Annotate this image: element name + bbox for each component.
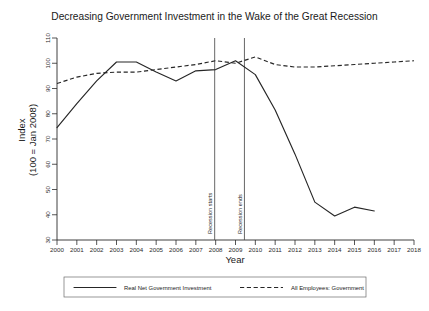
x-tick-label: 2001 — [70, 246, 84, 253]
series-line-0 — [57, 61, 374, 216]
y-tick-label: 110 — [44, 33, 51, 43]
recession-annotations: Recession startsRecession ends — [207, 38, 244, 240]
chart-legend: Real Net Government Investment All Emplo… — [64, 277, 366, 297]
y-axis-title-line1: Index — [16, 118, 27, 141]
x-tick-label: 2013 — [308, 246, 322, 253]
y-axis-title-line2: (100 = Jan 2008) — [27, 104, 38, 176]
x-tick-label: 2005 — [149, 246, 163, 253]
x-tick-label: 2014 — [328, 246, 342, 253]
x-tick-label: 2000 — [50, 246, 64, 253]
x-tick-label: 2017 — [387, 246, 401, 253]
x-tick-label: 2015 — [348, 246, 362, 253]
recession-marker-label: Recession starts — [207, 192, 213, 234]
x-tick-label: 2007 — [189, 246, 203, 253]
x-tick-label: 2018 — [407, 246, 421, 253]
x-tick-label: 2004 — [129, 246, 143, 253]
x-tick-label: 2006 — [169, 246, 183, 253]
x-tick-label: 2011 — [269, 246, 283, 253]
y-tick-group: 30405060708090100110 — [44, 33, 57, 244]
x-tick-group: 2000200120022003200420052006200720082009… — [50, 240, 421, 253]
x-axis-title: Year — [225, 254, 244, 265]
x-tick-label: 2012 — [288, 246, 302, 253]
line-chart: Decreasing Government Investment in the … — [0, 0, 429, 311]
recession-marker-label: Recession ends — [237, 194, 243, 234]
x-tick-label: 2016 — [367, 246, 381, 253]
x-tick-label: 2009 — [229, 246, 243, 253]
y-tick-label: 100 — [44, 58, 51, 69]
y-tick-label: 40 — [44, 211, 51, 218]
x-tick-label: 2010 — [248, 246, 262, 253]
x-tick-label: 2003 — [110, 246, 124, 253]
legend-label-all-employees-government: All Employees: Government — [291, 285, 364, 291]
x-tick-label: 2008 — [209, 246, 223, 253]
chart-title: Decreasing Government Investment in the … — [51, 11, 377, 22]
y-tick-label: 70 — [44, 135, 51, 142]
legend-label-real-net-government-investment: Real Net Government Investment — [124, 285, 212, 291]
y-tick-label: 60 — [44, 160, 51, 167]
series-group — [57, 57, 414, 216]
y-tick-label: 90 — [44, 85, 51, 92]
y-axis: 30405060708090100110 Index (100 = Jan 20… — [16, 33, 57, 244]
y-tick-label: 50 — [44, 186, 51, 193]
x-tick-label: 2002 — [90, 246, 104, 253]
x-axis: 2000200120022003200420052006200720082009… — [50, 240, 421, 265]
y-tick-label: 30 — [44, 236, 51, 243]
y-tick-label: 80 — [44, 110, 51, 117]
chart-container: Decreasing Government Investment in the … — [0, 0, 429, 311]
